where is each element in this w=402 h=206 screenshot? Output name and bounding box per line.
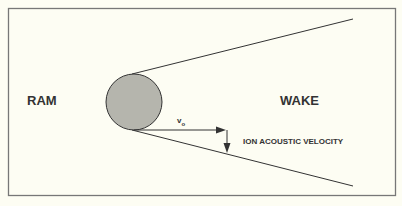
ion-acoustic-velocity-label: ION ACOUSTIC VELOCITY bbox=[243, 137, 343, 146]
upper-wake-boundary bbox=[132, 19, 353, 74]
spacecraft-body bbox=[106, 74, 162, 130]
wake-diagram: RAM WAKE vo ION ACOUSTIC VELOCITY bbox=[0, 0, 402, 206]
velocity-subscript: o bbox=[181, 121, 185, 127]
ram-label: RAM bbox=[27, 93, 57, 108]
velocity-arrowhead-icon bbox=[216, 127, 226, 134]
velocity-label: vo bbox=[177, 116, 185, 127]
frame-border bbox=[9, 9, 396, 196]
wake-label: WAKE bbox=[280, 93, 319, 108]
diagram-canvas bbox=[0, 0, 402, 206]
ion-acoustic-arrowhead-icon bbox=[224, 143, 231, 153]
